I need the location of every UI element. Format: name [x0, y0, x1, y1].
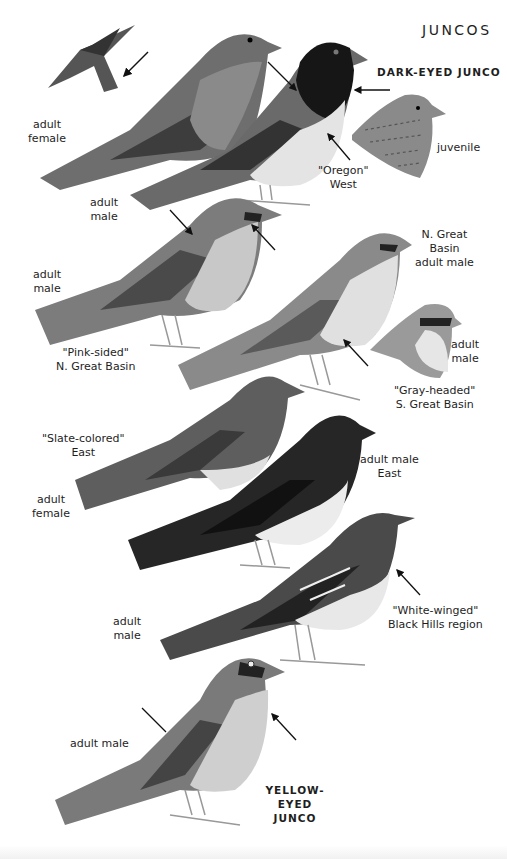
label-pink-sided-male: adultmale [33, 268, 61, 296]
bird-illustrations [0, 0, 507, 859]
pink-sided-junco-illustration [35, 198, 282, 348]
species-heading-yellow-eyed: YELLOW-EYED JUNCO [250, 783, 340, 825]
label-slate-male: adult maleEast [360, 453, 419, 481]
label-gray-headed-form: "Gray-headed"S. Great Basin [394, 384, 475, 412]
label-pink-sided-form: "Pink-sided"N. Great Basin [56, 346, 135, 374]
pointer-arrow [124, 52, 148, 76]
pointer-line [142, 708, 166, 732]
pointer-arrow [170, 210, 192, 234]
label-white-winged-form: "White-winged"Black Hills region [388, 604, 483, 632]
label-oregon-form: "Oregon"West [318, 164, 369, 192]
label-slate-female: adultfemale [32, 493, 70, 521]
label-oregon-female: adultfemale [28, 118, 66, 146]
label-gray-headed-head: adultmale [451, 338, 479, 366]
page-edge-shadow [0, 845, 507, 859]
label-gray-headed-ngb: N. GreatBasinadult male [415, 228, 474, 270]
pointer-arrow [397, 570, 420, 595]
label-white-winged-male: adultmale [113, 615, 141, 643]
label-oregon-male: adultmale [90, 196, 118, 224]
label-juvenile: juvenile [437, 141, 480, 155]
pointer-arrow [268, 62, 296, 90]
label-yellow-eyed-male: adult male [70, 737, 129, 751]
field-guide-plate: JUNCOS DARK-EYED JUNCO YELLOW-EYED JUNCO… [0, 0, 507, 859]
flying-junco-illustration [48, 25, 135, 92]
species-heading-dark-eyed: DARK-EYED JUNCO [377, 66, 501, 78]
label-slate-form: "Slate-colored"East [42, 432, 125, 460]
pointer-arrow [272, 714, 296, 740]
page-title: JUNCOS [422, 22, 492, 38]
